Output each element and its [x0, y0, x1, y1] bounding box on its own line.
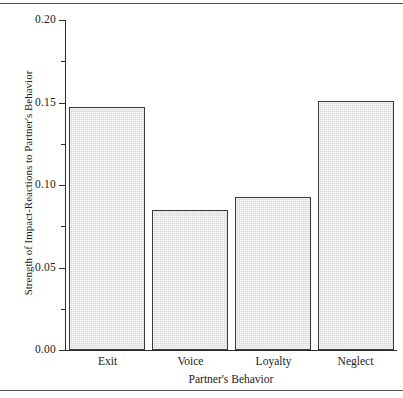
y-axis-title: Strength of Impact-Reactions to Partner'…: [22, 33, 34, 333]
x-tick-label-loyalty: Loyalty: [232, 355, 315, 368]
y-tick-minor: [61, 309, 66, 310]
y-tick-major: [59, 350, 66, 351]
bar-exit: [69, 107, 145, 350]
y-tick-major: [59, 185, 66, 186]
y-tick-label: 0.00: [10, 344, 56, 356]
x-tick-label-neglect: Neglect: [314, 355, 397, 368]
y-tick-major: [59, 103, 66, 104]
bar-loyalty: [235, 197, 311, 350]
bar-chart-figure: 0.000.050.100.150.20 ExitVoiceLoyaltyNeg…: [0, 0, 403, 398]
top-divider-rule: [0, 3, 403, 4]
y-tick-major: [59, 268, 66, 269]
x-axis-title: Partner's Behavior: [65, 373, 397, 386]
bottom-divider-rule: [0, 390, 403, 391]
y-tick-minor: [61, 144, 66, 145]
y-tick-major: [59, 20, 66, 21]
bar-neglect: [318, 101, 394, 350]
x-axis-line: [65, 350, 397, 351]
y-tick-minor: [61, 226, 66, 227]
x-tick-label-voice: Voice: [149, 355, 232, 368]
x-tick-label-exit: Exit: [66, 355, 149, 368]
y-tick-label: 0.20: [10, 14, 56, 26]
bar-voice: [152, 210, 228, 350]
y-tick-minor: [61, 61, 66, 62]
